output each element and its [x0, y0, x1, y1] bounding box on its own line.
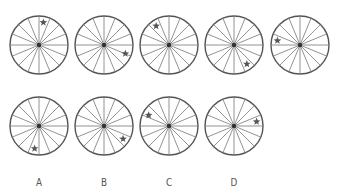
option-wheel-d[interactable] — [205, 97, 263, 155]
wheel-hub — [232, 43, 236, 47]
option-label-b: B — [96, 176, 112, 189]
sequence-wheel-3 — [140, 16, 198, 74]
wheel-hub — [37, 43, 41, 47]
sequence-wheel-5 — [271, 16, 329, 74]
wheel-hub — [102, 124, 106, 128]
wheel-hub — [298, 43, 302, 47]
wheel-hub — [167, 43, 171, 47]
option-label-d: D — [226, 176, 242, 189]
wheel-hub — [167, 124, 171, 128]
sequence-wheel-2 — [75, 16, 133, 74]
option-wheel-b[interactable] — [75, 97, 133, 155]
wheel-hub — [102, 43, 106, 47]
sequence-wheel-4 — [205, 16, 263, 74]
wheel-hub — [37, 124, 41, 128]
sequence-wheel-1 — [10, 16, 68, 74]
option-wheel-c[interactable] — [140, 97, 198, 155]
option-label-c: C — [161, 176, 177, 189]
option-wheel-a[interactable] — [10, 97, 68, 155]
puzzle-canvas — [0, 0, 340, 196]
option-label-a: A — [31, 176, 47, 189]
wheel-hub — [232, 124, 236, 128]
